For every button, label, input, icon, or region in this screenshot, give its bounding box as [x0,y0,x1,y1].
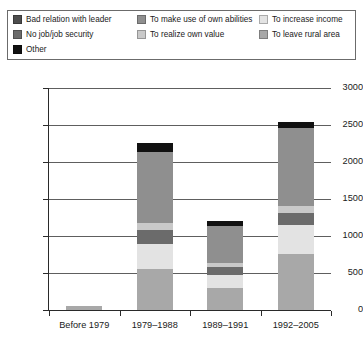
legend-label: To leave rural area [272,30,340,39]
legend-label: No job/job security [26,30,93,39]
bar-segment [207,226,243,263]
legend-swatch-icon [259,30,268,39]
legend-label: To realize own value [150,30,224,39]
bar-segment [207,267,243,274]
legend-row: Other [13,45,352,60]
bar-segment [278,254,314,310]
y-axis-tick-label: 500 [323,267,363,277]
bar-segments [207,221,243,310]
bar-segment [137,143,173,153]
y-axis-tick-label: 2000 [323,156,363,166]
y-axis-tick-label: 2500 [323,119,363,129]
bar-segment [278,206,314,213]
y-axis-tick-label: 3000 [323,82,363,92]
legend-swatch-icon [137,30,146,39]
legend-swatch-icon [13,30,22,39]
bar-segment [137,152,173,223]
legend-label: To make use of own abilities [150,15,252,24]
legend-label: Other [26,45,46,54]
legend-item-other: Other [13,45,137,54]
y-axis-tick-label: 1000 [323,230,363,240]
legend-label: To increase income [272,15,343,24]
y-axis-tick-label: 1500 [323,193,363,203]
gridline [49,88,331,89]
bar-segment [137,223,173,230]
bar-segment [278,225,314,254]
legend-swatch-icon [137,15,146,24]
legend-item-to-realize-own-value: To realize own value [137,30,259,39]
legend-swatch-icon [13,45,22,54]
chart-legend: Bad relation with leader To make use of … [7,10,356,60]
chart-figure: Bad relation with leader To make use of … [0,0,363,352]
bar-stack [278,122,314,310]
x-axis-tick [120,311,121,316]
legend-item-no-job-job-security: No job/job security [13,30,137,39]
bar-stack [66,306,102,310]
y-axis-line [48,88,49,310]
bar-segment [278,213,314,225]
x-axis-tick-label: 1992–2005 [254,320,338,330]
bar-segments [137,143,173,310]
legend-label: Bad relation with leader [26,15,112,24]
bar-stack [137,143,173,310]
x-axis-tick [261,311,262,316]
bar-segment [137,244,173,268]
bar-segments [278,122,314,310]
legend-item-bad-relation-with-leader: Bad relation with leader [13,15,137,24]
bar-segment [278,128,314,206]
legend-row: No job/job security To realize own value… [13,30,352,45]
legend-item-to-leave-rural-area: To leave rural area [259,30,340,39]
bar-stack [207,221,243,310]
legend-swatch-icon [259,15,268,24]
bar-segment [207,288,243,310]
y-axis-tick-label: 0 [323,304,363,314]
bar-segment [66,306,102,310]
x-axis-tick [49,311,50,316]
legend-swatch-icon [13,15,22,24]
legend-row: Bad relation with leader To make use of … [13,15,352,30]
x-axis-tick [190,311,191,316]
bar-segment [207,275,243,288]
bar-segments [66,306,102,310]
bar-segment [137,269,173,310]
bar-segment [137,230,173,244]
legend-item-to-increase-income: To increase income [259,15,343,24]
plot-area: 050010001500200025003000 Before 19791979… [0,62,363,352]
x-axis-tick [331,311,332,316]
legend-item-to-make-use-of-own-abilities: To make use of own abilities [137,15,259,24]
